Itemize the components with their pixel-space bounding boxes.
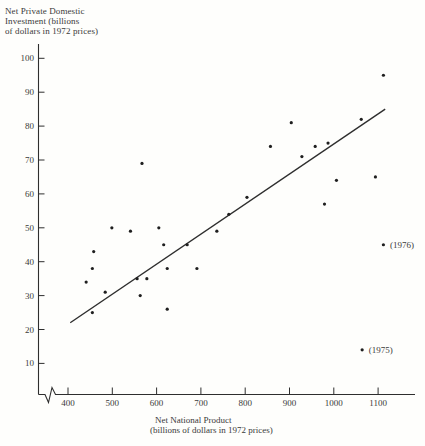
y-axis-tick-label: 50 bbox=[25, 223, 35, 233]
y-axis-tick-label: 90 bbox=[25, 87, 35, 97]
data-point bbox=[166, 267, 169, 270]
chart-page: Net Private Domestic Investment (billion… bbox=[0, 0, 425, 446]
x-axis-title-line2: (billions of dollars in 1972 prices) bbox=[150, 425, 273, 435]
y-axis-tick-label: 60 bbox=[25, 189, 35, 199]
data-point bbox=[300, 155, 303, 158]
scatter-plot: 1020304050607080901004005006007008009001… bbox=[0, 0, 425, 446]
data-point bbox=[326, 141, 329, 144]
data-point bbox=[186, 243, 189, 246]
data-point bbox=[245, 196, 248, 199]
data-point bbox=[314, 145, 317, 148]
data-point bbox=[215, 230, 218, 233]
data-point-year-label: (1976) bbox=[390, 240, 414, 250]
data-point bbox=[162, 243, 165, 246]
x-axis-title: Net National Product (billions of dollar… bbox=[150, 415, 273, 435]
y-axis-tick-label: 20 bbox=[25, 325, 35, 335]
trend-line bbox=[70, 109, 385, 323]
data-point bbox=[374, 175, 377, 178]
x-axis-tick-label: 900 bbox=[283, 398, 297, 408]
x-axis-tick-label: 600 bbox=[150, 398, 164, 408]
data-point bbox=[91, 311, 94, 314]
data-point bbox=[91, 267, 94, 270]
data-point bbox=[139, 294, 142, 297]
data-point bbox=[227, 213, 230, 216]
data-point bbox=[166, 308, 169, 311]
x-axis-tick-label: 500 bbox=[106, 398, 120, 408]
data-point bbox=[140, 162, 143, 165]
y-axis-tick-label: 40 bbox=[25, 257, 35, 267]
y-axis-tick-label: 100 bbox=[21, 53, 35, 63]
data-point bbox=[361, 348, 364, 351]
x-axis-tick-label: 800 bbox=[238, 398, 252, 408]
data-point bbox=[290, 121, 293, 124]
x-axis-tick-label: 1000 bbox=[325, 398, 344, 408]
y-axis-tick-label: 70 bbox=[25, 155, 35, 165]
y-axis-tick-label: 80 bbox=[25, 121, 35, 131]
data-point bbox=[92, 250, 95, 253]
data-point bbox=[382, 74, 385, 77]
y-axis-tick-label: 10 bbox=[25, 358, 35, 368]
x-axis-tick-label: 400 bbox=[61, 398, 75, 408]
data-point bbox=[360, 118, 363, 121]
x-axis-title-line1: Net National Product bbox=[150, 415, 273, 425]
data-point bbox=[382, 243, 385, 246]
x-axis-line-with-break bbox=[39, 388, 416, 403]
x-axis-tick-label: 1100 bbox=[369, 398, 387, 408]
data-point bbox=[145, 277, 148, 280]
data-point-year-label: (1975) bbox=[369, 345, 393, 355]
y-axis-tick-label: 30 bbox=[25, 291, 35, 301]
x-axis-tick-label: 700 bbox=[194, 398, 208, 408]
data-point bbox=[104, 291, 107, 294]
data-point bbox=[129, 230, 132, 233]
data-point bbox=[136, 277, 139, 280]
data-point bbox=[323, 202, 326, 205]
data-point bbox=[110, 226, 113, 229]
data-point bbox=[157, 226, 160, 229]
data-point bbox=[269, 145, 272, 148]
data-point bbox=[335, 179, 338, 182]
data-point bbox=[195, 267, 198, 270]
data-point bbox=[85, 280, 88, 283]
